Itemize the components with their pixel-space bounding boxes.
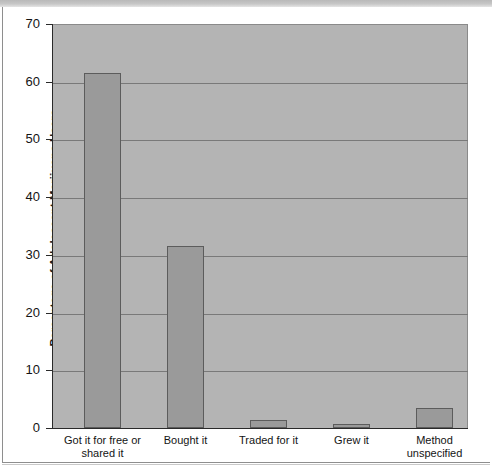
x-category-label-line: Bought it [144,434,227,447]
page-border-bottom-shadow [2,464,490,465]
y-tick-label-40: 40 [6,190,40,203]
bar [167,246,204,428]
y-tick-label-70: 70 [6,17,40,30]
x-axis-line [46,428,468,429]
x-category-label: Bought it [144,434,227,447]
x-category-label: Got it for free orshared it [61,434,144,460]
x-category-label-line: unspecified [393,447,476,460]
plot-inner [53,25,467,428]
scan-top-band [0,0,492,7]
y-tick-label-30: 30 [6,248,40,261]
y-tick-mark-0 [46,428,53,429]
y-tick-label-50: 50 [6,132,40,145]
x-category-label-line: Got it for free or [61,434,144,447]
plot-area [53,24,468,428]
bar [250,420,287,428]
page-border-left [2,7,3,463]
bar [416,408,453,428]
y-tick-label-20: 20 [6,306,40,319]
y-tick-mark-30 [46,255,53,256]
x-category-label-line: Grew it [310,434,393,447]
bar [84,73,121,428]
y-tick-mark-70 [46,24,53,25]
x-category-label-line: Method [393,434,476,447]
y-tick-mark-50 [46,139,53,140]
x-category-label: Grew it [310,434,393,447]
y-tick-mark-40 [46,197,53,198]
y-tick-mark-60 [46,82,53,83]
x-category-label: Traded for it [227,434,310,447]
x-category-label: Methodunspecified [393,434,476,460]
x-category-label-line: Traded for it [227,434,310,447]
y-tick-label-0: 0 [6,421,40,434]
page-border-bottom [2,462,490,463]
y-tick-mark-20 [46,313,53,314]
y-tick-label-10: 10 [6,363,40,376]
x-category-label-line: shared it [61,447,144,460]
y-axis-line [52,24,53,429]
bar-chart-figure: Percentage of Adolescent Marijuana Users… [0,0,492,472]
y-tick-label-60: 60 [6,75,40,88]
y-tick-mark-10 [46,370,53,371]
